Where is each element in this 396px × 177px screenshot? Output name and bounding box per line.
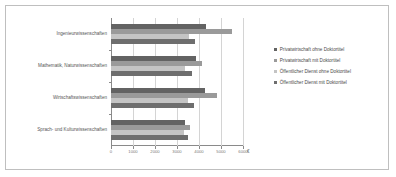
bar xyxy=(111,71,192,76)
legend-item[interactable]: Öffentlicher Dienst ohne Doktortitel xyxy=(274,66,392,77)
chart-legend: Privatwirtschaft ohne DoktortitelPrivatw… xyxy=(274,44,392,88)
legend-item[interactable]: Privatwirtschaft ohne Doktortitel xyxy=(274,44,392,55)
legend-label: Privatwirtschaft ohne Doktortitel xyxy=(280,47,345,52)
category-label: Mathematik, Naturwissenschaften xyxy=(6,63,107,68)
category-tick xyxy=(109,82,111,83)
bar xyxy=(111,103,194,108)
legend-label: Öffentlicher Dienst ohne Doktortitel xyxy=(280,69,351,74)
chart-frame: 0100020003000400050006000 Ingenieurwisse… xyxy=(5,5,389,170)
category-label: Ingenieurwissenschaften xyxy=(6,31,107,36)
x-axis-tick-label: 3000 xyxy=(172,149,181,154)
legend-item[interactable]: Öffentlicher Dienst mit Doktortitel xyxy=(274,77,392,88)
legend-item[interactable]: Privatwirtschaft mit Doktortitel xyxy=(274,55,392,66)
gridline xyxy=(199,18,200,146)
gridline xyxy=(243,18,244,146)
legend-swatch-icon xyxy=(274,70,277,73)
category-tick xyxy=(109,114,111,115)
x-axis-tick-label: 0 xyxy=(110,149,112,154)
category-label: Sprach- und Kulturwissenschaften xyxy=(6,127,107,132)
legend-label: Öffentlicher Dienst mit Doktortitel xyxy=(280,80,347,85)
axis-unit-label: € xyxy=(247,149,250,154)
gridline xyxy=(221,18,222,146)
x-axis-tick-label: 1000 xyxy=(128,149,137,154)
x-axis-tick-label: 2000 xyxy=(150,149,159,154)
category-tick xyxy=(109,50,111,51)
bar xyxy=(111,135,188,140)
x-axis-tick-label: 4000 xyxy=(194,149,203,154)
bar xyxy=(111,39,195,44)
legend-swatch-icon xyxy=(274,48,277,51)
legend-label: Privatwirtschaft mit Doktortitel xyxy=(280,58,341,63)
legend-swatch-icon xyxy=(274,59,277,62)
category-label: Wirtschaftswissenschaften xyxy=(6,95,107,100)
x-axis-tick-label: 5000 xyxy=(216,149,225,154)
legend-swatch-icon xyxy=(274,81,277,84)
